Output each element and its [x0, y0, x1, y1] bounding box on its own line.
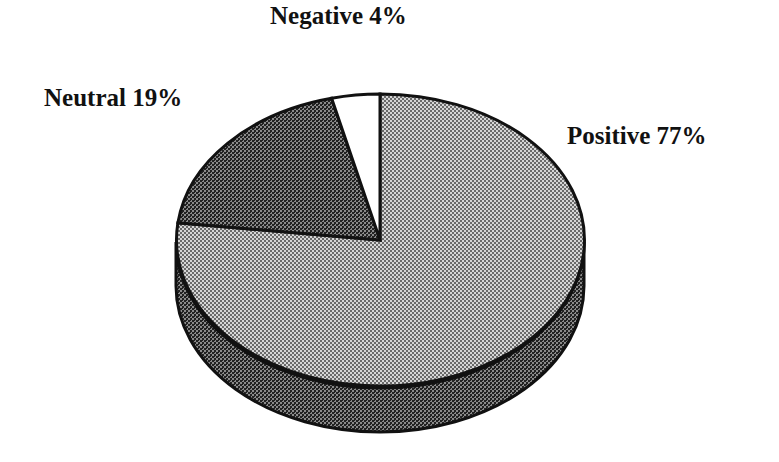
pie-chart — [0, 0, 779, 462]
label-positive: Positive 77% — [567, 122, 707, 150]
label-negative: Negative 4% — [270, 2, 407, 30]
label-neutral: Neutral 19% — [44, 84, 182, 112]
